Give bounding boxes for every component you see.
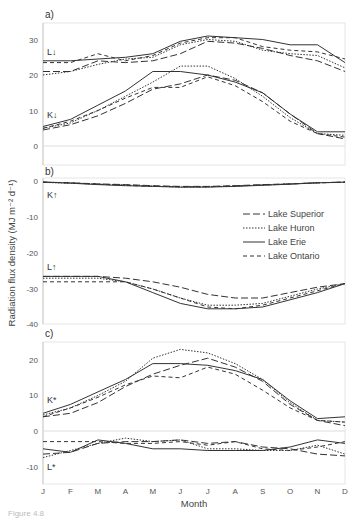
month-tick: S <box>260 487 265 496</box>
figure-caption: Figure 4.8 <box>8 509 45 518</box>
series-line <box>43 77 345 137</box>
series-line <box>43 276 345 308</box>
tick: -20 <box>26 249 38 258</box>
month-tick: D <box>342 487 348 496</box>
tick: 10 <box>29 107 38 116</box>
month-tick: N <box>315 487 321 496</box>
tick: 30 <box>29 36 38 45</box>
month-tick: O <box>287 487 293 496</box>
annotation-l-star: L* <box>47 462 56 472</box>
series-line <box>43 75 345 139</box>
series-line <box>43 66 345 135</box>
panel-b-label: b) <box>45 166 54 177</box>
month-tick: F <box>68 487 73 496</box>
legend-huron: Lake Huron <box>268 223 315 233</box>
series-line <box>43 440 345 456</box>
radiation-flux-chart: a) 30 20 10 0 L↓ K↓ b) 0 -10 -20 -30 -40… <box>0 0 361 518</box>
tick: 0 <box>34 177 39 186</box>
annotation-k-up: K↑ <box>47 190 58 200</box>
series-line <box>43 438 345 458</box>
month-tick: J <box>178 487 182 496</box>
annotation-l-down: L↓ <box>47 47 57 57</box>
series-line <box>43 38 345 63</box>
tick: 0 <box>34 142 39 151</box>
tick: 20 <box>29 71 38 80</box>
panel-a: a) 30 20 10 0 L↓ K↓ <box>29 9 345 165</box>
annotation-k-star: K* <box>47 395 57 405</box>
month-tick: J <box>206 487 210 496</box>
month-tick: J <box>41 487 45 496</box>
tick: 20 <box>29 356 38 365</box>
tick: -10 <box>26 213 38 222</box>
x-axis-months: JFMAMJJASOND <box>41 487 348 496</box>
panel-c-label: c) <box>45 328 53 339</box>
y-axis-label: Radiation flux density (MJ m⁻² d⁻¹) <box>6 180 17 327</box>
series-line <box>43 282 345 309</box>
panel-c: c) 20 10 0 -10 K* L* <box>26 328 345 484</box>
month-tick: M <box>95 487 102 496</box>
panel-a-label: a) <box>45 9 54 20</box>
tick: -10 <box>26 463 38 472</box>
series-line <box>43 358 345 426</box>
tick: 0 <box>34 427 39 436</box>
legend-erie: Lake Erie <box>268 237 306 247</box>
x-axis-label: Month <box>181 498 207 509</box>
series-line <box>43 276 345 298</box>
tick: -30 <box>26 285 38 294</box>
annotation-l-up: L↑ <box>47 262 57 272</box>
annotation-k-down: K↓ <box>47 110 58 120</box>
month-tick: A <box>233 487 239 496</box>
month-tick: M <box>149 487 156 496</box>
tick: -40 <box>26 320 38 329</box>
series-line <box>43 349 345 422</box>
series-line <box>43 72 345 132</box>
legend: Lake Superior Lake Huron Lake Erie Lake … <box>243 209 324 261</box>
series-line <box>43 367 345 422</box>
month-tick: A <box>123 487 129 496</box>
legend-superior: Lake Superior <box>268 209 324 219</box>
tick: 10 <box>29 391 38 400</box>
legend-ontario: Lake Ontario <box>268 251 320 261</box>
panel-b: b) 0 -10 -20 -30 -40 K↑ L↑ Lake Superior… <box>26 166 345 329</box>
